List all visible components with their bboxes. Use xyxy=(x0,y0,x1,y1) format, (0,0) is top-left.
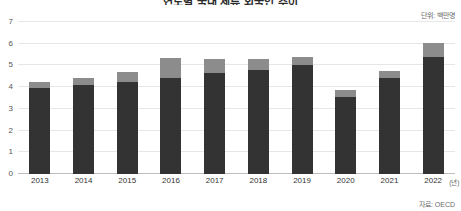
x-axis-tick-label: 2021 xyxy=(381,176,399,185)
bar-segment-top xyxy=(423,43,444,57)
x-axis: (년) 201320142015201620172018201920202021… xyxy=(18,176,455,190)
bar xyxy=(117,72,138,174)
bar-segment-base xyxy=(292,65,313,174)
bar xyxy=(73,78,94,174)
bar-segment-top xyxy=(117,72,138,82)
bar xyxy=(423,43,444,174)
bar-segment-base xyxy=(117,82,138,174)
x-axis-tick-label: 2015 xyxy=(118,176,136,185)
bar-segment-base xyxy=(29,88,50,174)
chart-title: 연도별 국내 체류 외국인 추이 xyxy=(0,0,461,5)
bar xyxy=(204,59,225,174)
x-axis-tick-label: 2014 xyxy=(75,176,93,185)
y-axis-tick-label: 5 xyxy=(9,60,13,69)
y-axis-tick-label: 1 xyxy=(9,147,13,156)
y-axis-tick-label: 3 xyxy=(9,103,13,112)
bar-segment-top xyxy=(160,58,181,79)
bar-segment-base xyxy=(335,97,356,174)
x-axis-tick-label: 2013 xyxy=(31,176,49,185)
bar-segment-top xyxy=(204,59,225,73)
bar-segment-base xyxy=(204,73,225,174)
bar-chart: 연도별 국내 체류 외국인 추이 단위: 백만명 01234567 (년) 20… xyxy=(0,0,461,211)
bar-segment-base xyxy=(160,78,181,174)
y-axis-tick-label: 4 xyxy=(9,82,13,91)
bar-segment-top xyxy=(379,71,400,79)
bar-segment-base xyxy=(379,78,400,174)
x-axis-tick-label: 2019 xyxy=(293,176,311,185)
x-axis-tick-label: 2018 xyxy=(249,176,267,185)
bar-segment-base xyxy=(423,57,444,174)
y-axis-tick-label: 7 xyxy=(9,17,13,26)
x-axis-tick-label: 2016 xyxy=(162,176,180,185)
bar-segment-top xyxy=(335,90,356,97)
y-axis-tick-label: 2 xyxy=(9,125,13,134)
bar xyxy=(292,57,313,174)
plot-area: 01234567 xyxy=(18,22,455,174)
bar-segment-top xyxy=(248,59,269,70)
bar-segment-top xyxy=(292,57,313,66)
source-note: 자료: OECD xyxy=(419,199,455,209)
bar xyxy=(248,59,269,174)
bar xyxy=(335,90,356,174)
x-axis-unit-label: (년) xyxy=(449,177,459,187)
bar xyxy=(379,71,400,174)
bar-segment-top xyxy=(73,78,94,85)
bar-segment-top xyxy=(29,82,50,89)
y-axis-tick-label: 0 xyxy=(9,169,13,178)
bar-segment-base xyxy=(73,85,94,174)
bar-segment-base xyxy=(248,70,269,174)
x-axis-tick-label: 2017 xyxy=(206,176,224,185)
bars-layer xyxy=(18,22,455,174)
bar xyxy=(29,82,50,174)
unit-note: 단위: 백만명 xyxy=(421,10,455,20)
bar xyxy=(160,58,181,174)
x-axis-tick-label: 2022 xyxy=(424,176,442,185)
x-axis-tick-label: 2020 xyxy=(337,176,355,185)
y-axis-tick-label: 6 xyxy=(9,38,13,47)
